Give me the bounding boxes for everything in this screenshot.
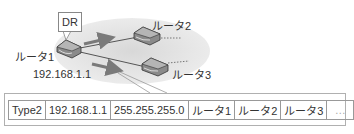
lsa-mask-cell: 255.255.255.0 — [111, 101, 189, 120]
lsa-ip-cell: 192.168.1.1 — [45, 101, 110, 120]
lsa-type-cell: Type2 — [9, 101, 46, 120]
dr-label: DR — [62, 16, 78, 28]
table-row: Type2 192.168.1.1 255.255.255.0 ルータ1 ルータ… — [9, 101, 354, 120]
lsa-router3-cell: ルータ3 — [281, 101, 327, 120]
lsa-router2-cell: ルータ2 — [235, 101, 281, 120]
network-lsa-table: Type2 192.168.1.1 255.255.255.0 ルータ1 ルータ… — [8, 100, 354, 120]
router3-label: ルータ3 — [172, 69, 211, 81]
lsa-more-cell: … — [327, 101, 354, 120]
lsa-router1-cell: ルータ1 — [189, 101, 235, 120]
dr-callout: DR — [58, 12, 82, 32]
router1-label: ルータ1 — [15, 51, 54, 63]
network-lsa-diagram: DR ルータ1 192.168.1.1 ルータ2 ルータ3 Type2 192.… — [0, 0, 354, 134]
router2-label: ルータ2 — [152, 20, 191, 32]
router1-ip: 192.168.1.1 — [33, 68, 91, 80]
